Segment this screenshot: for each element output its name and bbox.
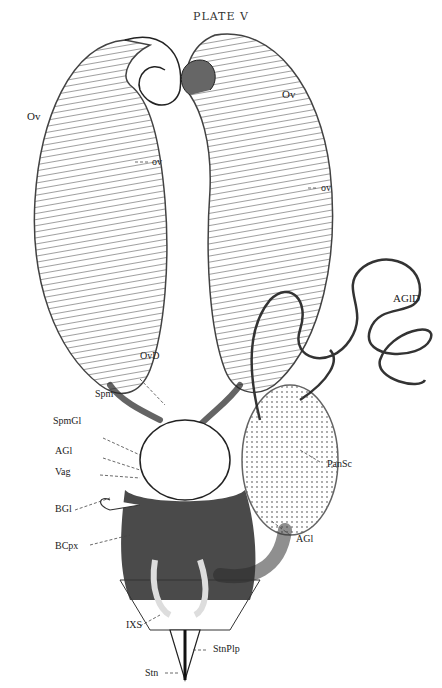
label-agld: AGlD — [393, 292, 420, 304]
label-stnplp: StnPlp — [213, 643, 240, 654]
central-body — [101, 420, 260, 630]
label-ov-right: Ov — [282, 88, 295, 100]
pansc-sac — [242, 385, 338, 535]
right-ovary — [181, 34, 332, 392]
label-ov-right-small: ov — [321, 182, 331, 193]
label-ovd: OvD — [140, 350, 159, 361]
label-ov-left-small: ov — [152, 156, 162, 167]
label-vag: Vag — [55, 466, 71, 477]
left-ovary — [34, 37, 180, 393]
label-bgl: BGl — [55, 503, 72, 514]
label-spm: Spm — [95, 388, 113, 399]
label-bcpx: BCpx — [55, 540, 78, 551]
label-agl-left: AGl — [55, 445, 72, 456]
label-pansc: PanSc — [327, 458, 352, 469]
label-spmgl: SpmGl — [53, 415, 81, 426]
label-stn: Stn — [145, 667, 158, 678]
anatomical-illustration — [0, 0, 442, 688]
label-ov-left: Ov — [27, 110, 40, 122]
label-agl-right: AGl — [296, 533, 313, 544]
label-ixs: IXS — [126, 619, 142, 630]
